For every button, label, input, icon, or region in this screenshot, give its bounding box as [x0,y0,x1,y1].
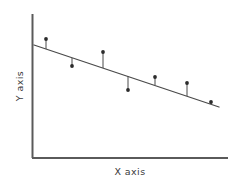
data-point [153,75,157,79]
data-point [70,64,74,68]
data-point [209,100,213,104]
x-axis-label: X axis [115,166,146,177]
data-point [44,37,48,41]
figure-canvas: Y axis X axis [0,0,239,183]
data-point [101,50,105,54]
regression-residual-plot: Y axis X axis [0,0,239,183]
residual-segments [46,39,211,104]
data-point [126,88,130,92]
data-point-markers [44,37,213,104]
regression-line [34,45,219,107]
data-point [185,81,189,85]
y-axis-label: Y axis [14,71,25,102]
